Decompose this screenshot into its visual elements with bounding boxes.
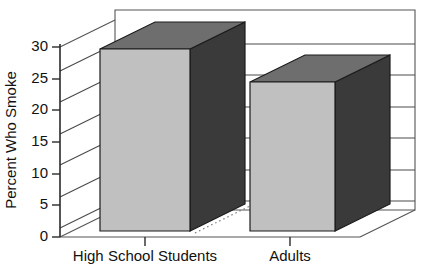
bar-side-face — [190, 22, 245, 231]
y-tick-label-10: 10 — [31, 164, 48, 181]
y-tick-label-20: 20 — [31, 100, 48, 117]
y-tick-label-0: 0 — [40, 227, 48, 244]
y-tick-label-5: 5 — [40, 195, 48, 212]
x-axis: High School Students Adults — [73, 237, 311, 264]
bar-high-school-students[interactable] — [100, 22, 245, 231]
bar-side-face — [335, 55, 390, 231]
x-axis-label-high-school-students: High School Students — [73, 247, 217, 264]
x-axis-label-adults: Adults — [269, 247, 311, 264]
left-wall-top-edge — [60, 20, 115, 47]
chart-canvas: 30 25 20 15 10 5 0 Percent Who Smoke Hig… — [0, 0, 422, 272]
y-tick-label-25: 25 — [31, 69, 48, 86]
y-axis: 30 25 20 15 10 5 0 Percent Who Smoke — [2, 37, 60, 244]
y-tick-label-15: 15 — [31, 132, 48, 149]
bar-front-face — [100, 49, 190, 231]
y-tick-label-30: 30 — [31, 37, 48, 54]
bar-adults[interactable] — [250, 55, 390, 231]
bar-front-face — [250, 82, 335, 231]
y-axis-title: Percent Who Smoke — [2, 71, 19, 209]
bar-chart-figure: 30 25 20 15 10 5 0 Percent Who Smoke Hig… — [0, 0, 422, 272]
